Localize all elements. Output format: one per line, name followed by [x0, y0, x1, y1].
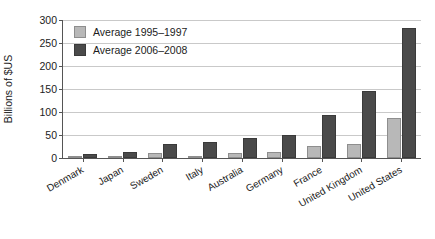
bar — [163, 144, 177, 158]
bar-chart-figure: Billions of $US 050100150200250300 Denma… — [0, 0, 435, 239]
x-axis-label: Japan — [96, 163, 127, 187]
chart-legend: Average 1995–1997Average 2006–2008 — [74, 25, 187, 56]
bar — [148, 153, 162, 158]
bar — [307, 146, 321, 158]
x-axis-category-labels: DenmarkJapanSwedenItalyAustraliaGermanyF… — [62, 160, 420, 236]
bar — [362, 91, 376, 158]
y-tick-label: 250 — [39, 37, 57, 49]
bar — [347, 144, 361, 158]
bar — [83, 154, 97, 158]
bar-group — [302, 20, 342, 158]
legend-label: Average 2006–2008 — [93, 44, 187, 56]
legend-swatch-icon — [74, 44, 86, 56]
bar — [188, 156, 202, 158]
bar — [387, 118, 401, 158]
y-axis-title: Billions of $US — [2, 20, 16, 158]
bar — [228, 153, 242, 158]
legend-item: Average 1995–1997 — [74, 25, 187, 38]
x-axis-label-cell: Australia — [221, 160, 261, 236]
bar — [123, 152, 137, 158]
x-axis-label: Italy — [184, 163, 207, 183]
x-axis-label-cell: United States — [380, 160, 420, 236]
bar — [322, 115, 336, 158]
y-tick-label: 50 — [45, 129, 57, 141]
x-axis-label: Denmark — [45, 163, 87, 194]
y-tick-label: 200 — [39, 60, 57, 72]
legend-item: Average 2006–2008 — [74, 43, 187, 56]
y-tick-label: 0 — [51, 152, 57, 164]
x-axis-label-cell: Japan — [102, 160, 142, 236]
x-axis-label-cell: Germany — [261, 160, 301, 236]
bar — [402, 28, 416, 158]
legend-swatch-icon — [74, 26, 86, 38]
bar — [282, 135, 296, 158]
x-axis-label-cell: Denmark — [62, 160, 102, 236]
y-tick-mark — [59, 158, 63, 159]
bar-group — [222, 20, 262, 158]
bar — [243, 138, 257, 158]
y-tick-label: 100 — [39, 106, 57, 118]
x-axis-label-cell: Italy — [181, 160, 221, 236]
bar — [108, 156, 122, 158]
y-tick-label: 300 — [39, 14, 57, 26]
bar — [267, 152, 281, 158]
bar-group — [381, 20, 421, 158]
x-axis-label-cell: Sweden — [142, 160, 182, 236]
bar — [68, 156, 82, 158]
bar-group — [182, 20, 222, 158]
legend-label: Average 1995–1997 — [93, 26, 187, 38]
y-tick-label: 150 — [39, 83, 57, 95]
bar — [203, 142, 217, 158]
bar-group — [262, 20, 302, 158]
bar-group — [341, 20, 381, 158]
